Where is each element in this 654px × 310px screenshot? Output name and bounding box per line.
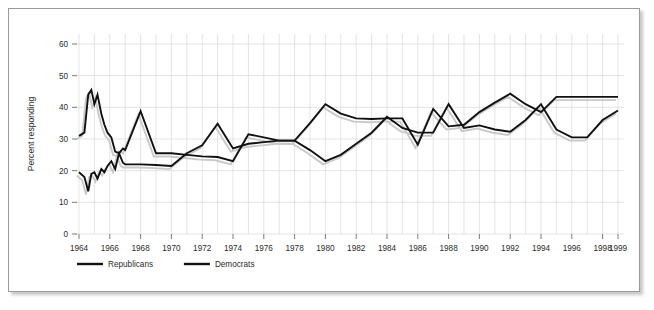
x-tick-label: 1984: [378, 244, 397, 253]
y-axis-tick-labels: 0102030405060: [59, 40, 69, 239]
x-tick-label: 1999: [609, 244, 628, 253]
series-data-lines: [79, 90, 618, 191]
figure-root: 0102030405060 19641966196819701972197419…: [0, 0, 654, 310]
y-tick-label: 20: [59, 167, 69, 176]
legend-label-democrats: Democrats: [215, 260, 255, 269]
y-tick-label: 40: [59, 103, 69, 112]
x-tick-marks: [79, 234, 618, 239]
x-tick-label: 1966: [101, 244, 120, 253]
x-axis-tick-labels: 1964196619681970197219741976197819801982…: [70, 244, 628, 253]
x-tick-label: 1980: [316, 244, 335, 253]
x-tick-label: 1972: [193, 244, 212, 253]
vertical-gridlines: [79, 34, 618, 234]
y-tick-label: 30: [59, 135, 69, 144]
chart-legend: RepublicansDemocrats: [77, 260, 254, 269]
x-tick-label: 1994: [532, 244, 551, 253]
x-tick-label: 1974: [224, 244, 243, 253]
x-tick-label: 1988: [439, 244, 458, 253]
x-tick-label: 1964: [70, 244, 89, 253]
line-chart: 0102030405060 19641966196819701972197419…: [9, 9, 641, 293]
x-tick-label: 1982: [347, 244, 366, 253]
horizontal-gridlines: [75, 44, 624, 234]
x-tick-label: 1976: [255, 244, 274, 253]
x-tick-label: 1978: [285, 244, 304, 253]
series-line-democrats: [79, 104, 618, 191]
y-tick-label: 50: [59, 72, 69, 81]
x-tick-label: 1996: [563, 244, 582, 253]
y-tick-marks: [72, 44, 77, 234]
y-tick-label: 0: [63, 230, 68, 239]
x-tick-label: 1970: [162, 244, 181, 253]
y-tick-label: 10: [59, 198, 69, 207]
x-tick-label: 1968: [131, 244, 150, 253]
x-tick-label: 1992: [501, 244, 520, 253]
figure-frame: 0102030405060 19641966196819701972197419…: [8, 8, 640, 292]
x-tick-label: 1990: [470, 244, 489, 253]
legend-label-republicans: Republicans: [108, 260, 153, 269]
y-tick-label: 60: [59, 40, 69, 49]
x-tick-label: 1986: [409, 244, 428, 253]
y-axis-title: Percent responding: [26, 97, 36, 172]
